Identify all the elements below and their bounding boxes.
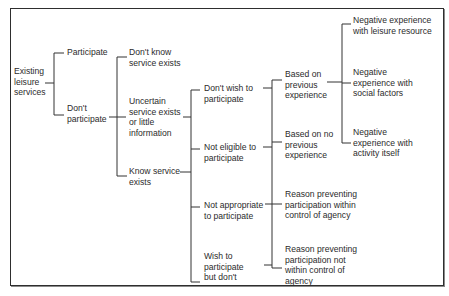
node-reason-not-within-control: Reason preventing participation not with… bbox=[285, 244, 357, 286]
node-negative-experience-social-factors: Negative experience with social factors bbox=[353, 67, 413, 99]
node-based-on-no-previous-experience: Based on no previous experience bbox=[285, 129, 333, 161]
node-negative-experience-leisure-resource: Negative experience with leisure resourc… bbox=[353, 15, 432, 36]
node-not-appropriate-to-participate: Not appropriate to participate bbox=[204, 200, 263, 221]
node-existing-leisure-services: Existing leisure services bbox=[14, 66, 46, 98]
node-dont-know-service-exists: Don't know service exists bbox=[129, 47, 181, 68]
node-participate: Participate bbox=[67, 47, 108, 58]
node-reason-within-control: Reason preventing participation within c… bbox=[285, 189, 357, 221]
node-not-eligible-to-participate: Not eligible to participate bbox=[204, 142, 256, 163]
node-uncertain-service-exists: Uncertain service exists or little infor… bbox=[129, 96, 181, 138]
node-know-service-exists: Know service exists bbox=[129, 166, 180, 187]
node-based-on-previous-experience: Based on previous experience bbox=[285, 69, 327, 101]
node-dont-wish-to-participate: Don't wish to participate bbox=[204, 83, 253, 104]
node-dont-participate: Don't participate bbox=[67, 103, 107, 124]
node-wish-to-participate-but-dont: Wish to participate but don't bbox=[204, 251, 244, 283]
node-negative-experience-activity-itself: Negative experience with activity itself bbox=[353, 127, 413, 159]
